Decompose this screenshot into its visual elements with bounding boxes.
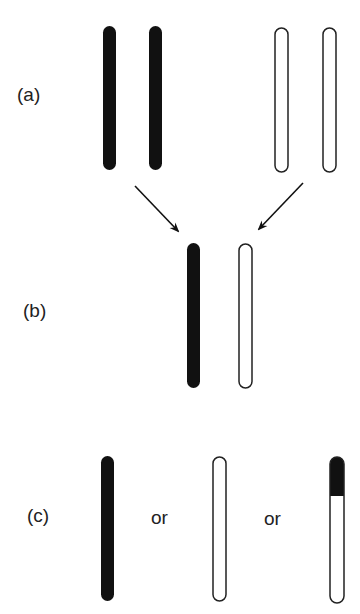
chromosome-recombinant-c: [330, 457, 344, 603]
chromosome-open-b: [239, 244, 252, 388]
chromosome-open-a1: [275, 28, 288, 172]
chromosome-filled-c: [101, 456, 114, 601]
chromosome-filled-a1: [103, 26, 116, 170]
diagram-canvas: [0, 0, 360, 614]
arrow-right: [259, 183, 303, 229]
chromosome-filled-a2: [149, 26, 162, 170]
arrow-left: [135, 186, 178, 231]
chromosome-open-a2: [323, 28, 336, 172]
chromosome-filled-b: [187, 243, 200, 388]
chromosome-open-c: [213, 457, 226, 601]
